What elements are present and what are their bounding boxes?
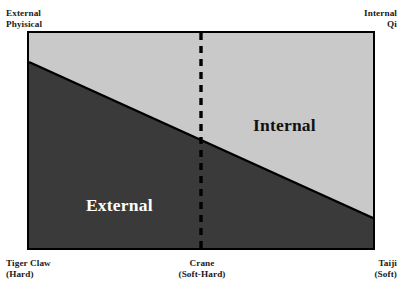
region-label-external: External	[86, 195, 153, 216]
axis-label-bottom-left-line2: (Hard)	[6, 269, 51, 280]
axis-label-bottom-right-line1: Taiji	[374, 258, 397, 269]
axis-label-bottom-left-line1: Tiger Claw	[6, 258, 51, 269]
plot-box: Internal External	[27, 31, 375, 250]
axis-label-top-left: External Phyisical	[6, 8, 42, 30]
axis-label-top-right: Internal Qi	[364, 8, 397, 30]
axis-label-top-left-line2: Phyisical	[6, 19, 42, 30]
axis-label-bottom-center-line1: Crane	[148, 258, 256, 269]
region-label-internal: Internal	[253, 115, 316, 136]
plot-svg	[29, 33, 373, 248]
axis-label-bottom-right: Taiji (Soft)	[374, 258, 397, 280]
axis-label-top-right-line2: Qi	[364, 19, 397, 30]
axis-label-bottom-center: Crane (Soft-Hard)	[148, 258, 256, 280]
diagram-root: External Phyisical Internal Qi Internal …	[0, 0, 403, 289]
axis-label-bottom-center-line2: (Soft-Hard)	[148, 269, 256, 280]
axis-label-bottom-left: Tiger Claw (Hard)	[6, 258, 51, 280]
axis-label-top-right-line1: Internal	[364, 8, 397, 19]
axis-label-top-left-line1: External	[6, 8, 42, 19]
axis-label-bottom-right-line2: (Soft)	[374, 269, 397, 280]
